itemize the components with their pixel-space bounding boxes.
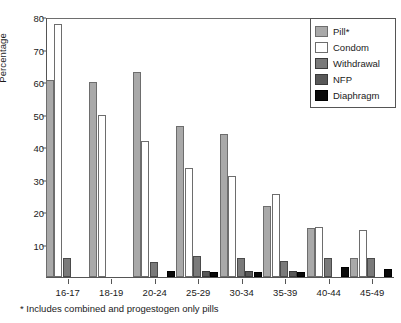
bar-diaphragm bbox=[210, 272, 218, 277]
bar-withdrawal bbox=[150, 262, 158, 277]
y-tick-label: 10 bbox=[0, 240, 44, 251]
x-tick-mark bbox=[155, 279, 156, 284]
bar-withdrawal bbox=[280, 261, 288, 277]
bar-condom bbox=[315, 227, 323, 277]
bar-pill bbox=[89, 82, 97, 277]
bar-diaphragm bbox=[167, 271, 175, 278]
x-tick-mark bbox=[111, 279, 112, 284]
bar-pill bbox=[350, 258, 358, 278]
bar-condom bbox=[141, 141, 149, 278]
x-tick-label: 45-49 bbox=[360, 287, 384, 298]
legend-item: Pill* bbox=[315, 23, 392, 39]
bar-group bbox=[134, 17, 178, 277]
bar-diaphragm bbox=[384, 269, 392, 277]
bar-condom bbox=[54, 24, 62, 278]
chart-legend: Pill*CondomWithdrawalNFPDiaphragm bbox=[310, 18, 396, 108]
x-tick-mark bbox=[285, 279, 286, 284]
x-tick-label: 40-44 bbox=[317, 287, 341, 298]
bar-pill bbox=[307, 228, 315, 277]
bar-withdrawal bbox=[367, 258, 375, 278]
bar-withdrawal bbox=[237, 258, 245, 278]
legend-item: NFP bbox=[315, 71, 392, 87]
bar-diaphragm bbox=[297, 272, 305, 277]
legend-swatch-icon bbox=[315, 26, 328, 37]
y-tick-label: 70 bbox=[0, 45, 44, 56]
legend-label: NFP bbox=[333, 74, 352, 85]
legend-swatch-icon bbox=[315, 58, 328, 69]
x-tick-label: 25-29 bbox=[186, 287, 210, 298]
bar-group bbox=[221, 17, 265, 277]
bar-condom bbox=[185, 168, 193, 277]
bar-withdrawal bbox=[63, 258, 71, 278]
y-tick-label: 80 bbox=[0, 13, 44, 24]
x-tick-label: 20-24 bbox=[143, 287, 167, 298]
x-tick-mark bbox=[198, 279, 199, 284]
y-tick-label: 60 bbox=[0, 78, 44, 89]
bar-nfp bbox=[245, 271, 253, 278]
legend-label: Withdrawal bbox=[333, 58, 380, 69]
bar-withdrawal bbox=[193, 256, 201, 277]
bar-pill bbox=[46, 80, 54, 277]
x-tick-mark bbox=[372, 279, 373, 284]
bar-group bbox=[265, 17, 309, 277]
bar-group bbox=[91, 17, 135, 277]
legend-label: Pill* bbox=[333, 26, 349, 37]
bar-withdrawal bbox=[324, 258, 332, 278]
x-tick-label: 16-17 bbox=[56, 287, 80, 298]
bar-condom bbox=[98, 115, 106, 278]
bar-nfp bbox=[289, 271, 297, 278]
bar-pill bbox=[133, 72, 141, 277]
bar-pill bbox=[176, 126, 184, 277]
bar-group bbox=[47, 17, 91, 277]
x-tick-mark bbox=[242, 279, 243, 284]
x-tick-label: 18-19 bbox=[99, 287, 123, 298]
x-tick-label: 30-34 bbox=[230, 287, 254, 298]
x-tick-mark bbox=[68, 279, 69, 284]
legend-label: Diaphragm bbox=[333, 90, 379, 101]
x-tick-mark bbox=[329, 279, 330, 284]
y-tick-label: 20 bbox=[0, 208, 44, 219]
bar-group bbox=[178, 17, 222, 277]
bar-pill bbox=[220, 134, 228, 277]
bar-condom bbox=[359, 230, 367, 277]
y-tick-label: 40 bbox=[0, 143, 44, 154]
bar-diaphragm bbox=[341, 267, 349, 277]
legend-swatch-icon bbox=[315, 90, 328, 101]
x-tick-label: 35-39 bbox=[273, 287, 297, 298]
legend-swatch-icon bbox=[315, 74, 328, 85]
y-tick-label: 50 bbox=[0, 110, 44, 121]
bar-condom bbox=[272, 194, 280, 277]
bar-diaphragm bbox=[254, 272, 262, 277]
bar-condom bbox=[228, 176, 236, 277]
legend-item: Withdrawal bbox=[315, 55, 392, 71]
bar-pill bbox=[263, 206, 271, 278]
chart-footnote: * Includes combined and progestogen only… bbox=[20, 303, 219, 314]
legend-swatch-icon bbox=[315, 42, 328, 53]
legend-label: Condom bbox=[333, 42, 369, 53]
bar-chart-figure: Percentage 1020304050607080 16-1718-1920… bbox=[0, 0, 401, 323]
legend-item: Diaphragm bbox=[315, 87, 392, 103]
bar-nfp bbox=[202, 271, 210, 278]
y-tick-label: 30 bbox=[0, 175, 44, 186]
legend-item: Condom bbox=[315, 39, 392, 55]
